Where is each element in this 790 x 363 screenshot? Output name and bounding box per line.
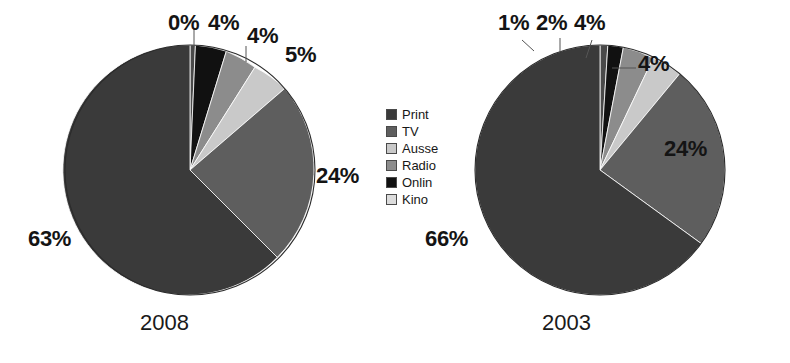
pie-label-4pct-b-2008: 4% — [247, 25, 278, 47]
pie-label-5pct-2008: 5% — [285, 44, 316, 66]
chart-year-2003: 2003 — [542, 312, 591, 334]
pie-label-4pct-a-2003: 4% — [574, 12, 605, 34]
pie-label-4pct-a-2008: 4% — [208, 12, 239, 34]
chart-year-2008: 2008 — [140, 312, 189, 334]
chart-canvas: 0% 4% 4% 5% 24% 63% 2008 Print TV Ausse … — [0, 0, 790, 363]
pie-label-63pct-2008: 63% — [28, 228, 71, 250]
pie-label-24pct-2008: 24% — [316, 165, 359, 187]
pie-chart-2003: 1% 2% 4% 4% 24% 66% 2003 — [400, 0, 790, 363]
legend-swatch-print-icon — [386, 109, 397, 120]
legend-swatch-tv-icon — [386, 126, 397, 137]
pie-label-66pct-2003: 66% — [425, 228, 468, 250]
legend-swatch-kino-icon — [386, 194, 397, 205]
pie-label-24pct-2003: 24% — [664, 138, 707, 160]
pie-label-1pct-2003: 1% — [498, 12, 529, 34]
pie-label-0pct-2008: 0% — [168, 12, 199, 34]
legend-swatch-radio-icon — [386, 160, 397, 171]
pie-label-2pct-2003: 2% — [536, 12, 567, 34]
leader-lines-2003 — [400, 0, 790, 363]
legend-swatch-online-icon — [386, 177, 397, 188]
pie-chart-2008: 0% 4% 4% 5% 24% 63% 2008 — [0, 0, 395, 363]
legend-swatch-aussenwerbung-icon — [386, 143, 397, 154]
pie-label-4pct-b-2003: 4% — [638, 53, 669, 75]
